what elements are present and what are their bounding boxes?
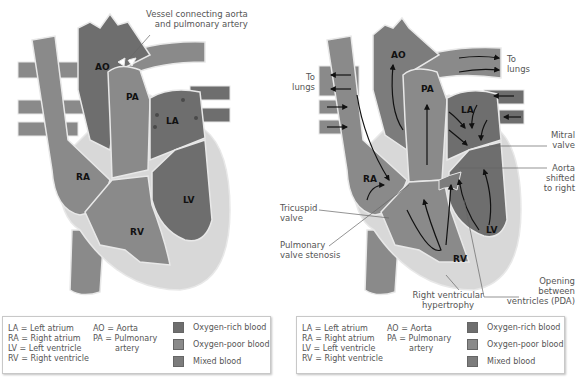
tetralogy-heart-panel: AO PA LA RA LV RV Tolungs Tolungs Mitral…	[289, 0, 578, 384]
svg-text:PA: PA	[421, 84, 434, 94]
svg-text:RA: RA	[76, 172, 90, 182]
legend-abbrev-col1: LA = Left atrium RA = Right atrium LV = …	[302, 324, 383, 364]
annotation-line: and pulmonary artery	[146, 19, 248, 29]
mitral-valve-label: Mitralvalve	[519, 130, 575, 150]
legend-abbrev-col1: LA = Left atrium RA = Right atrium LV = …	[8, 324, 89, 364]
legend-abbrev-rv: RV = Right ventricle	[302, 354, 383, 364]
legend-abbrev-pa-cont: artery	[93, 344, 157, 354]
legend-label: Oxygen-rich blood	[487, 323, 560, 332]
oxygen-poor-swatch-icon	[173, 339, 184, 350]
rv-hypertrophy-label: Right ventricularhypertrophy	[407, 290, 489, 310]
to-lungs-left-label: Tolungs	[285, 72, 315, 92]
legend-abbrev-ao: AO = Aorta	[93, 324, 157, 334]
connecting-vessel-annotation: Vessel connecting aorta and pulmonary ar…	[146, 9, 248, 29]
annotation-line: Aorta	[519, 163, 575, 173]
annotation-line: hypertrophy	[407, 300, 489, 310]
annotation-line: lungs	[285, 82, 315, 92]
legend-oxygen-poor: Oxygen-poor blood	[467, 339, 564, 350]
annotation-line: Right ventricular	[407, 290, 489, 300]
annotation-line: valve	[280, 213, 317, 223]
legend-label: Oxygen-rich blood	[193, 323, 266, 332]
tricuspid-valve-label: Tricuspidvalve	[280, 203, 317, 223]
annotation-line: Mitral	[519, 130, 575, 140]
legend-abbrev-rv: RV = Right ventricle	[8, 354, 89, 364]
normal-heart-panel: AO PA LA RA LV RV Vessel connecting aort…	[0, 0, 289, 384]
legend-label: Oxygen-poor blood	[193, 340, 270, 349]
legend-abbrev-lv: LV = Left ventricle	[302, 344, 383, 354]
legend-oxygen-rich: Oxygen-rich blood	[467, 322, 560, 333]
legend-mixed: Mixed blood	[467, 356, 535, 367]
normal-heart-illustration: AO PA LA RA LV RV	[0, 0, 289, 300]
legend-abbrev-lv: LV = Left ventricle	[8, 344, 89, 354]
annotation-line: ventricles (PDA)	[495, 296, 575, 306]
oxygen-rich-swatch-icon	[173, 322, 184, 333]
legend-abbrev-col2: AO = Aorta PA = Pulmonary artery	[387, 324, 451, 354]
legend-label: Mixed blood	[193, 357, 241, 366]
legend-abbrev-pa: PA = Pulmonary	[93, 334, 157, 344]
annotation-line: To	[507, 54, 530, 64]
svg-text:RV: RV	[130, 227, 144, 237]
svg-text:LV: LV	[486, 225, 497, 235]
svg-text:LA: LA	[461, 105, 474, 115]
svg-text:LV: LV	[183, 195, 194, 205]
annotation-line: to right	[519, 183, 575, 193]
annotation-line: Vessel connecting aorta	[146, 9, 248, 19]
svg-text:RA: RA	[363, 174, 377, 184]
legend-oxygen-rich: Oxygen-rich blood	[173, 322, 266, 333]
legend-abbrev-col2: AO = Aorta PA = Pulmonary artery	[93, 324, 157, 354]
annotation-line: To	[285, 72, 315, 82]
annotation-line: lungs	[507, 64, 530, 74]
legend-abbrev-ra: RA = Right atrium	[302, 334, 383, 344]
aorta-shifted-label: Aortashiftedto right	[519, 163, 575, 193]
annotation-line: between	[495, 286, 575, 296]
to-lungs-right-label: Tolungs	[507, 54, 530, 74]
legend-label: Oxygen-poor blood	[487, 340, 564, 349]
legend-abbrev-la: LA = Left atrium	[302, 324, 383, 334]
annotation-line: Pulmonary	[280, 240, 340, 250]
legend-mixed: Mixed blood	[173, 356, 241, 367]
svg-text:PA: PA	[126, 92, 139, 102]
mixed-swatch-icon	[467, 356, 478, 367]
svg-text:LA: LA	[166, 116, 179, 126]
svg-text:AO: AO	[95, 62, 110, 72]
legend-label: Mixed blood	[487, 357, 535, 366]
legend-abbrev-la: LA = Left atrium	[8, 324, 89, 334]
legend-oxygen-poor: Oxygen-poor blood	[173, 339, 270, 350]
legend-abbrev-pa: PA = Pulmonary	[387, 334, 451, 344]
opening-between-ventricles-label: Openingbetweenventricles (PDA)	[495, 276, 575, 306]
annotation-line: valve stenosis	[280, 250, 340, 260]
oxygen-rich-swatch-icon	[467, 322, 478, 333]
svg-text:AO: AO	[391, 50, 406, 60]
legend-box: LA = Left atrium RA = Right atrium LV = …	[296, 316, 565, 374]
legend-abbrev-ra: RA = Right atrium	[8, 334, 89, 344]
legend-box: LA = Left atrium RA = Right atrium LV = …	[2, 316, 271, 374]
oxygen-poor-swatch-icon	[467, 339, 478, 350]
mixed-swatch-icon	[173, 356, 184, 367]
annotation-line: shifted	[519, 173, 575, 183]
annotation-line: Tricuspid	[280, 203, 317, 213]
pulmonary-stenosis-label: Pulmonaryvalve stenosis	[280, 240, 340, 260]
legend-abbrev-ao: AO = Aorta	[387, 324, 451, 334]
svg-text:RV: RV	[453, 254, 467, 264]
legend-abbrev-pa-cont: artery	[387, 344, 451, 354]
annotation-line: Opening	[495, 276, 575, 286]
annotation-line: valve	[519, 140, 575, 150]
